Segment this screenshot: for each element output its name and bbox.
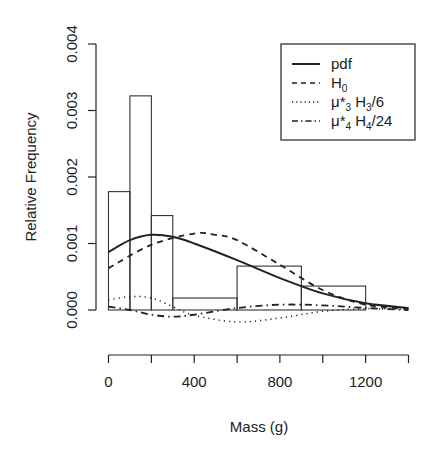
x-axis: [109, 355, 409, 363]
y-tick-label: 0.004: [63, 25, 80, 63]
x-tick-label: 1200: [349, 373, 382, 390]
histogram-bar: [173, 298, 237, 310]
x-tick-label: 800: [267, 373, 292, 390]
y-axis-label: Relative Frequency: [22, 112, 39, 242]
curve-dashed: [109, 233, 409, 309]
y-tick-labels: 0.000 0.001 0.002 0.003 0.004: [63, 25, 80, 329]
curve-dotted: [109, 297, 409, 322]
x-tick-labels: 0 400 800 1200: [104, 373, 382, 390]
curve-dotdash: [109, 305, 409, 317]
y-tick-label: 0.003: [63, 92, 80, 130]
chart: 0.000 0.001 0.002 0.003 0.004 Relative F…: [0, 0, 438, 452]
histogram-bar: [130, 96, 151, 310]
x-tick-label: 400: [182, 373, 207, 390]
x-axis-label: Mass (g): [230, 418, 288, 435]
legend: pdf H0 μ*3 H3/6 μ*4 H4/24: [281, 44, 415, 140]
curve-solid: [109, 235, 409, 308]
density-curves: [109, 233, 409, 322]
histogram-bar: [151, 216, 172, 310]
y-tick-label: 0.001: [63, 225, 80, 263]
x-tick-label: 0: [104, 373, 112, 390]
chart-svg: 0.000 0.001 0.002 0.003 0.004 Relative F…: [0, 0, 438, 452]
y-tick-label: 0.002: [63, 158, 80, 196]
y-tick-label: 0.000: [63, 291, 80, 329]
legend-label-pdf: pdf: [331, 55, 353, 72]
y-axis: [88, 44, 96, 310]
